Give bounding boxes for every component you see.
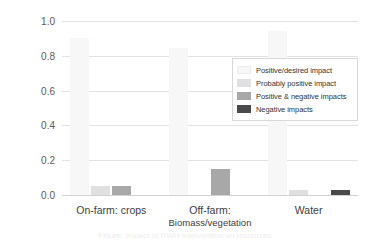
bar bbox=[91, 186, 110, 195]
x-axis-tick-label: Off-farm:Biomass/vegetation bbox=[161, 204, 260, 229]
x-axis-tick-label-line: Off-farm: bbox=[189, 204, 230, 216]
legend-swatch-icon bbox=[237, 105, 251, 113]
legend-item[interactable]: Positive & negative impacts bbox=[237, 90, 352, 102]
bar bbox=[289, 190, 308, 195]
figure-caption: Figure: Impact of RWH intervention on re… bbox=[0, 231, 370, 239]
bar bbox=[70, 38, 89, 195]
x-axis-tick-label-line: On-farm: crops bbox=[76, 204, 146, 216]
chart-figure: Impact of RWH intervention (% respondent… bbox=[0, 0, 370, 242]
legend-item[interactable]: Probably positive impact bbox=[237, 77, 352, 89]
x-axis-tick-label-line: Water bbox=[295, 204, 323, 216]
y-axis-tick-label: 0.8 bbox=[41, 50, 55, 61]
x-axis-tick-label: Water bbox=[259, 204, 358, 216]
chart-legend: Positive/desired impactProbably positive… bbox=[232, 58, 358, 121]
legend-swatch-icon bbox=[237, 79, 251, 87]
legend-item[interactable]: Positive/desired impact bbox=[237, 64, 352, 76]
y-axis-tick-label: 1.0 bbox=[41, 16, 55, 27]
y-axis-tick-label: 0.0 bbox=[41, 190, 55, 201]
y-axis-tick-label: 0.2 bbox=[41, 155, 55, 166]
bar bbox=[331, 190, 350, 195]
y-axis-tick-label: 0.4 bbox=[41, 120, 55, 131]
legend-label: Positive/desired impact bbox=[256, 66, 332, 75]
bar bbox=[112, 186, 131, 195]
legend-swatch-icon bbox=[237, 92, 251, 100]
bar bbox=[169, 48, 188, 195]
legend-swatch-icon bbox=[237, 66, 251, 74]
bar-group bbox=[70, 21, 152, 195]
legend-label: Negative impacts bbox=[256, 105, 313, 114]
x-axis-tick-label: On-farm: crops bbox=[62, 204, 161, 216]
gridline bbox=[62, 195, 358, 196]
x-axis-tick-label-line: Biomass/vegetation bbox=[161, 217, 260, 229]
legend-label: Positive & negative impacts bbox=[256, 92, 346, 101]
legend-label: Probably positive impact bbox=[256, 79, 336, 88]
legend-item[interactable]: Negative impacts bbox=[237, 103, 352, 115]
bar bbox=[211, 169, 230, 195]
y-axis-tick-label: 0.6 bbox=[41, 85, 55, 96]
